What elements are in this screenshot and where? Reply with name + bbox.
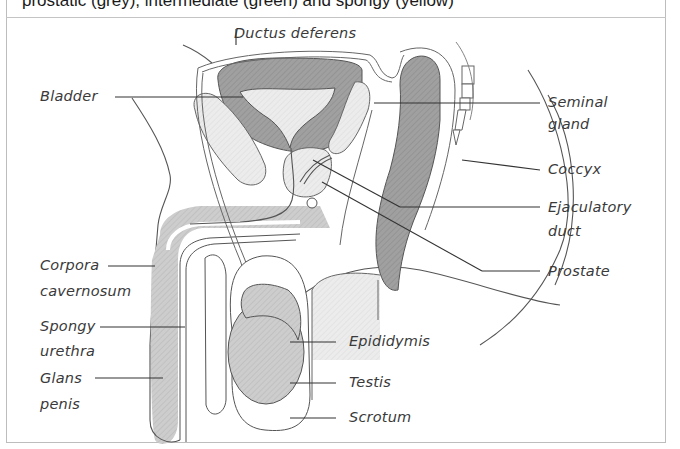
label-spongy-urethra-line1: Spongy bbox=[40, 317, 95, 336]
label-ejaculatory-duct-line2: duct bbox=[548, 222, 581, 241]
label-glans-penis-line1: Glans bbox=[40, 369, 82, 388]
label-seminal-gland-line2: gland bbox=[548, 115, 590, 134]
label-bladder: Bladder bbox=[40, 87, 98, 106]
label-scrotum: Scrotum bbox=[349, 408, 411, 427]
bulbourethral-gland bbox=[307, 198, 317, 208]
label-coccyx: Coccyx bbox=[548, 160, 601, 179]
label-testis: Testis bbox=[349, 373, 391, 392]
label-corpora-cavernosum-line2: cavernosum bbox=[40, 282, 131, 301]
label-ductus-deferens: Ductus deferens bbox=[234, 24, 356, 43]
label-glans-penis-line2: penis bbox=[40, 395, 80, 414]
label-prostate: Prostate bbox=[548, 262, 610, 281]
label-corpora-cavernosum-line1: Corpora bbox=[40, 256, 99, 275]
label-seminal-gland-line1: Seminal bbox=[548, 93, 608, 112]
label-epididymis: Epididymis bbox=[349, 332, 430, 351]
label-ejaculatory-duct-line1: Ejaculatory bbox=[548, 198, 631, 217]
label-spongy-urethra-line2: urethra bbox=[40, 342, 95, 361]
coccyx bbox=[453, 66, 474, 145]
